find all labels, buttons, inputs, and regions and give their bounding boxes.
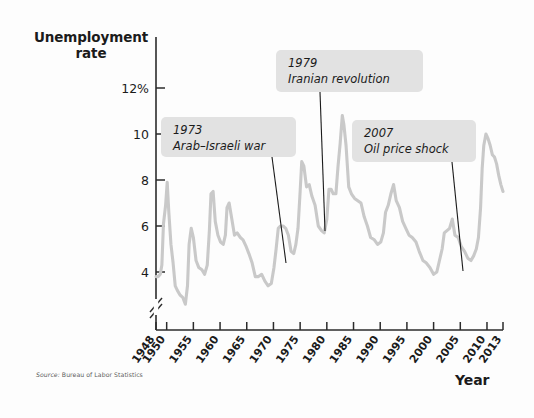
chart-figure: Unemployment rate Year Source: Bureau of… <box>0 0 534 418</box>
annotation-leader-iranian-revolution <box>320 92 325 231</box>
annotation-year-oil-price-shock: 2007 <box>364 126 394 140</box>
annotation-label-oil-price-shock: Oil price shock <box>364 142 450 156</box>
y-axis-ticks: 12%10864 <box>121 81 165 280</box>
x-tick-label: 1975 <box>273 333 301 366</box>
y-tick-label: 12% <box>121 81 149 96</box>
x-tick-label: 1955 <box>167 333 195 366</box>
annotation-oil-price-shock: 2007Oil price shock <box>352 120 476 162</box>
y-tick-label: 10 <box>133 127 149 142</box>
annotation-year-iranian-revolution: 1979 <box>288 56 317 70</box>
annotation-leader-arab-israeli-war <box>272 157 286 263</box>
axis-break-symbol <box>150 298 162 318</box>
x-tick-label: 2005 <box>434 333 462 366</box>
annotation-leader-oil-price-shock <box>452 162 463 271</box>
annotation-label-iranian-revolution: Iranian revolution <box>288 72 390 86</box>
annotation-year-arab-israeli-war: 1973 <box>173 123 202 137</box>
x-tick-label: 1995 <box>380 333 408 366</box>
x-tick-label: 1960 <box>193 333 221 366</box>
x-tick-label: 1965 <box>220 333 248 366</box>
x-tick-label: 1985 <box>327 333 355 366</box>
annotation-iranian-revolution: 1979Iranian revolution <box>276 50 423 92</box>
x-axis-ticks: 1948195019551960196519701975198019851990… <box>129 322 504 366</box>
y-tick-label: 8 <box>141 173 149 188</box>
annotation-arab-israeli-war: 1973Arab–Israeli war <box>161 117 296 157</box>
y-tick-label: 6 <box>141 219 149 234</box>
x-tick-label: 1980 <box>300 333 328 366</box>
axis-break-mask <box>154 299 158 315</box>
x-tick-label: 1970 <box>247 333 275 366</box>
chart-plot-area: 12%10864 1948195019551960196519701975198… <box>0 0 534 418</box>
x-tick-label: 1990 <box>353 333 381 366</box>
annotation-label-arab-israeli-war: Arab–Israeli war <box>172 139 266 153</box>
x-tick-label: 2000 <box>407 333 435 366</box>
y-tick-label: 4 <box>141 265 149 280</box>
